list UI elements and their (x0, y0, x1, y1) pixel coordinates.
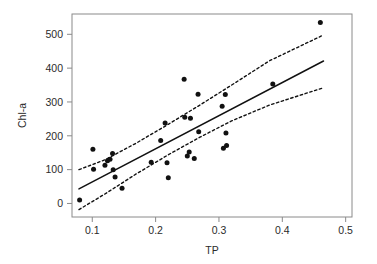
data-point (120, 186, 125, 191)
data-point (158, 138, 163, 143)
data-point (182, 115, 187, 120)
data-point (90, 147, 95, 152)
data-point (192, 156, 197, 161)
y-axis-tick-label: 500 (45, 28, 63, 40)
figure-root: 0.10.20.30.40.5 0100200300400500 TP Chl-… (0, 0, 377, 264)
data-point (182, 77, 187, 82)
data-point (187, 150, 192, 155)
data-point (166, 175, 171, 180)
data-point (223, 131, 228, 136)
data-point (220, 104, 225, 109)
y-axis-tick-label: 300 (45, 96, 63, 108)
y-axis-title: Chl-a (16, 103, 28, 128)
scatter-plot-canvas: 0.10.20.30.40.5 0100200300400500 TP Chl-… (0, 0, 377, 264)
x-axis-tick-label: 0.4 (275, 224, 290, 236)
y-axis-tick-label: 100 (45, 163, 63, 175)
data-point (163, 120, 168, 125)
data-point (113, 175, 118, 180)
x-axis-title: TP (205, 244, 218, 256)
x-axis-tick-label: 0.2 (148, 224, 163, 236)
data-point (188, 116, 193, 121)
y-axis-tick-label: 0 (57, 197, 63, 209)
x-axis-tick-label: 0.1 (85, 224, 100, 236)
data-point (91, 167, 96, 172)
data-point (108, 157, 113, 162)
y-axis-tick-label: 200 (45, 130, 63, 142)
data-point (110, 151, 115, 156)
data-point (77, 198, 82, 203)
data-point (149, 160, 154, 165)
data-point (318, 20, 323, 25)
x-axis-tick-label: 0.3 (212, 224, 227, 236)
data-point (102, 163, 107, 168)
data-point (165, 160, 170, 165)
data-point (111, 167, 116, 172)
data-point (196, 92, 201, 97)
data-point (223, 92, 228, 97)
data-point (196, 129, 201, 134)
y-axis-tick-label: 400 (45, 62, 63, 74)
x-axis-tick-label: 0.5 (338, 224, 353, 236)
data-point (224, 143, 229, 148)
data-point (270, 82, 275, 87)
